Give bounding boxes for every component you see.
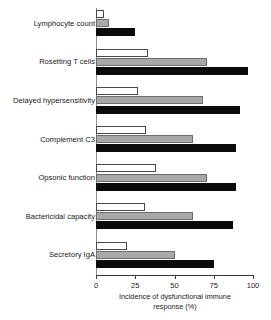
x-tick-label-75: 75 <box>210 281 218 290</box>
bar-gray <box>96 135 193 143</box>
category-label: Opsonic function <box>38 173 95 182</box>
bar-black <box>96 106 240 114</box>
bar-group <box>0 242 271 270</box>
bar-white <box>96 203 145 211</box>
bar-white <box>96 10 104 18</box>
x-axis-title-line2: response (%) <box>96 302 254 312</box>
x-tick-50 <box>175 275 176 279</box>
bar-gray <box>96 96 203 104</box>
bar-white <box>96 164 156 172</box>
bar-black <box>96 144 236 152</box>
bar-white <box>96 49 148 57</box>
x-tick-label-25: 25 <box>131 281 139 290</box>
x-tick-label-100: 100 <box>247 281 260 290</box>
category-label: Delayed hypersensitivity <box>13 96 95 105</box>
x-tick-100 <box>253 275 254 279</box>
category-label: Secretory IgA <box>49 250 95 259</box>
immune-response-bar-chart: 0255075100 Lymphocyte countRosetting T c… <box>0 0 271 320</box>
category-label: Bactericidal capacity <box>26 212 95 221</box>
bar-gray <box>96 212 193 220</box>
x-tick-label-0: 0 <box>94 281 98 290</box>
x-tick-25 <box>135 275 136 279</box>
bar-white <box>96 126 146 134</box>
bar-gray <box>96 251 175 259</box>
bar-black <box>96 260 214 268</box>
bar-black <box>96 28 135 36</box>
bar-gray <box>96 19 109 27</box>
bar-black <box>96 221 233 229</box>
bar-white <box>96 87 138 95</box>
x-tick-0 <box>96 275 97 279</box>
bar-gray <box>96 174 207 182</box>
category-label: Complement C3 <box>40 135 95 144</box>
bar-white <box>96 242 127 250</box>
category-label: Lymphocyte count <box>34 19 95 28</box>
x-tick-75 <box>214 275 215 279</box>
x-tick-label-50: 50 <box>170 281 178 290</box>
category-label: Rosetting T cells <box>39 57 95 66</box>
bar-black <box>96 67 248 75</box>
x-axis-title-line1: Incidence of dysfunctional immune <box>119 292 231 301</box>
x-axis-title: Incidence of dysfunctional immune respon… <box>96 292 254 312</box>
bar-gray <box>96 58 207 66</box>
bar-black <box>96 183 236 191</box>
